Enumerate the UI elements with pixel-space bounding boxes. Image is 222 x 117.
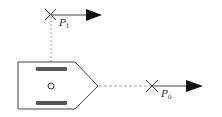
label-p0: P0 (161, 89, 172, 100)
diagram-canvas (0, 0, 222, 117)
label-p1: P1 (59, 18, 70, 29)
boat-bar-top (36, 67, 67, 71)
p0-arrow-head-icon (186, 80, 203, 92)
label-p0-main: P (161, 88, 168, 99)
boat-bar-bottom (36, 101, 67, 105)
label-p0-subscript: 0 (168, 93, 172, 100)
label-p1-main: P (59, 17, 66, 28)
p1-arrow-head-icon (86, 9, 102, 21)
label-p1-subscript: 1 (66, 22, 70, 29)
boat-center-icon (48, 83, 54, 89)
